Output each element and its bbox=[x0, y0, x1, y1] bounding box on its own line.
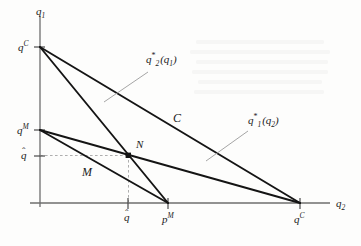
tick-label-p-m-horizontal: pM bbox=[162, 212, 174, 225]
region-label-M: M bbox=[82, 166, 92, 178]
cournot-diagram-figure: q1 q2 qC qM ̂q ̂q pM qC q*2 (q1) q*1 (q2… bbox=[0, 0, 361, 246]
horizontal-axis-label: q2 bbox=[336, 198, 345, 212]
vertical-axis-label: q1 bbox=[36, 6, 45, 20]
curve-best-response-q1-of-q2 bbox=[40, 130, 300, 203]
tick-label-q-hat-horizontal: ̂q bbox=[124, 212, 130, 223]
curve-monopoly-line-M bbox=[40, 130, 168, 203]
nash-equilibrium-marker bbox=[126, 153, 131, 158]
curve-label-q2-star-of-q1: q*2 (q1) bbox=[146, 52, 177, 67]
tick-label-q-c-horizontal: qC bbox=[294, 212, 305, 225]
tick-label-q-c-vertical: qC bbox=[18, 40, 29, 53]
tick-label-q-m-vertical: qM bbox=[17, 123, 29, 136]
nash-guide-lines bbox=[40, 155, 129, 203]
region-label-C: C bbox=[173, 112, 181, 124]
curve-collusive-line-C bbox=[40, 47, 168, 203]
curve-label-q1-star-of-q2: q*1 (q2) bbox=[248, 113, 279, 128]
nash-equilibrium-label: N bbox=[136, 139, 143, 150]
tick-label-q-hat-vertical: ̂q bbox=[21, 150, 27, 161]
leader-q1-star bbox=[206, 131, 248, 161]
